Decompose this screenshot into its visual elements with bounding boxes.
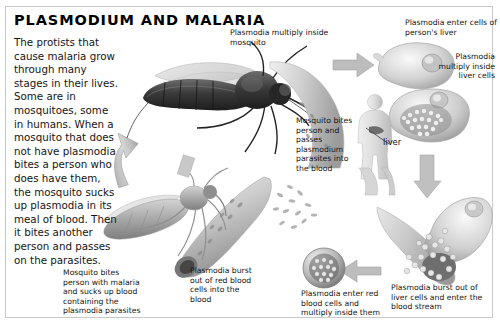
- blood-vessel-fragment: [355, 168, 395, 196]
- bursting-liver-cell-illustration: [377, 185, 495, 297]
- intro-paragraph: The protists that cause malaria grow thr…: [14, 36, 118, 267]
- page-title: PLASMODIUM AND MALARIA: [14, 12, 314, 29]
- arrow-right-to-liver: [333, 52, 375, 78]
- caption-multiply-in-mosquito: Plasmodia multiply inside mosquito: [230, 28, 338, 47]
- arrow-up-right-cycle: [178, 148, 204, 178]
- caption-enter-red-blood-cells: Plasmodia enter red blood cells and mult…: [301, 289, 385, 318]
- caption-multiply-in-liver-cells: Plasmodia multiply inside liver cells: [437, 52, 495, 81]
- caption-mosquito-bites-person: Mosquito bites person and passes plasmod…: [296, 116, 354, 174]
- caption-burst-out-of-liver: Plasmodia burst out of liver cells and e…: [391, 283, 495, 312]
- arrow-left-bottom: [340, 259, 382, 283]
- label-liver: liver: [383, 138, 423, 148]
- diagram-page: PLASMODIUM AND MALARIA The protists that…: [0, 0, 500, 324]
- caption-mosquito-bites-malaria-person: Mosquito bites person with malaria and s…: [63, 268, 143, 316]
- caption-enter-liver-cells: Plasmodia enter cells of person's liver: [405, 18, 497, 37]
- caption-burst-out-red-cells: Plasmodia burst out of red blood cells i…: [190, 266, 256, 304]
